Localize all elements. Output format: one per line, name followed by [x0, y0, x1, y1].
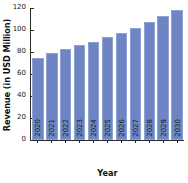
x-axis-tick-label: 2027	[132, 119, 140, 145]
x-axis-tick-label: 2026	[118, 119, 126, 145]
x-axis-tick-label: 2024	[90, 119, 98, 145]
y-axis-tick-label: 60	[17, 69, 26, 78]
y-axis-tick-label: 120	[13, 3, 26, 12]
y-axis-tick-label: 80	[17, 47, 26, 56]
x-axis-tick-label: 2023	[76, 119, 84, 145]
bar-chart-figure: Revenue (in USD Million) 020406080100120…	[0, 0, 188, 183]
x-axis-tick-label: 2025	[104, 119, 112, 145]
y-axis-tick-label: 100	[13, 25, 26, 34]
x-axis-tick-label: 2030	[174, 119, 182, 145]
y-axis-tick-label: 40	[17, 91, 26, 100]
x-axis-title: Year	[31, 168, 184, 178]
x-axis-tick-label: 2029	[160, 119, 168, 145]
x-axis-tick-label: 2020	[34, 119, 42, 145]
y-axis-title-text: Revenue (in USD Million)	[2, 19, 12, 131]
y-axis-title: Revenue (in USD Million)	[0, 0, 14, 150]
x-axis-tick-label: 2021	[48, 119, 56, 145]
y-axis-tick-label: 0	[22, 135, 26, 144]
y-axis-tick-label: 20	[17, 113, 26, 122]
x-axis-tick-label: 2022	[62, 119, 70, 145]
x-axis-tick-label: 2028	[146, 119, 154, 145]
plot-area: 020406080100120 202020212022202320242025…	[31, 8, 184, 140]
